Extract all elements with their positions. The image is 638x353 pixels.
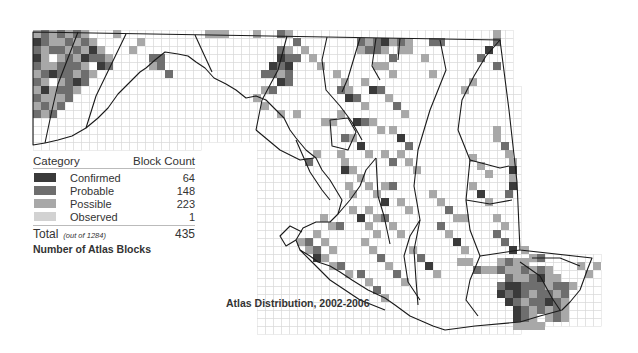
- atlas-block: [345, 94, 353, 102]
- grid-cell: [322, 287, 330, 295]
- grid-cell: [482, 287, 490, 295]
- grid-cell: [122, 95, 130, 103]
- grid-cell: [146, 103, 154, 111]
- grid-cell: [378, 239, 386, 247]
- grid-cell: [346, 239, 354, 247]
- grid-cell: [290, 279, 298, 287]
- grid-cell: [250, 71, 258, 79]
- grid-cell: [170, 79, 178, 87]
- atlas-block: [320, 214, 328, 222]
- grid-cell: [314, 119, 322, 127]
- grid-cell: [194, 119, 202, 127]
- grid-cell: [482, 295, 490, 303]
- grid-cell: [258, 39, 266, 47]
- grid-cell: [298, 31, 306, 39]
- grid-cell: [218, 135, 226, 143]
- atlas-block: [361, 118, 369, 126]
- grid-cell: [458, 295, 466, 303]
- atlas-block: [293, 54, 301, 62]
- grid-cell: [402, 87, 410, 95]
- atlas-block: [445, 230, 453, 238]
- grid-cell: [498, 87, 506, 95]
- grid-cell: [298, 263, 306, 271]
- grid-cell: [442, 303, 450, 311]
- grid-cell: [298, 191, 306, 199]
- grid-cell: [474, 327, 482, 335]
- atlas-block: [561, 314, 569, 322]
- grid-cell: [370, 319, 378, 327]
- grid-cell: [482, 135, 490, 143]
- atlas-block: [505, 290, 513, 298]
- grid-cell: [122, 87, 130, 95]
- atlas-block: [357, 46, 365, 54]
- grid-cell: [266, 207, 274, 215]
- grid-cell: [186, 63, 194, 71]
- grid-cell: [498, 175, 506, 183]
- grid-cell: [450, 47, 458, 55]
- grid-cell: [74, 135, 82, 143]
- grid-cell: [66, 111, 74, 119]
- grid-cell: [394, 207, 402, 215]
- grid-cell: [154, 111, 162, 119]
- atlas-block: [328, 222, 336, 230]
- grid-cell: [378, 135, 386, 143]
- grid-cell: [426, 239, 434, 247]
- grid-cell: [482, 71, 490, 79]
- grid-cell: [578, 311, 586, 319]
- grid-cell: [370, 327, 378, 335]
- atlas-block: [545, 266, 553, 274]
- grid-cell: [138, 31, 146, 39]
- grid-cell: [146, 87, 154, 95]
- grid-cell: [218, 95, 226, 103]
- grid-cell: [130, 31, 138, 39]
- grid-cell: [170, 55, 178, 63]
- atlas-block: [341, 166, 349, 174]
- grid-cell: [378, 167, 386, 175]
- grid-cell: [426, 247, 434, 255]
- grid-cell: [442, 31, 450, 39]
- grid-cell: [282, 255, 290, 263]
- grid-cell: [330, 63, 338, 71]
- grid-cell: [266, 127, 274, 135]
- grid-cell: [130, 119, 138, 127]
- grid-cell: [130, 143, 138, 151]
- grid-cell: [298, 287, 306, 295]
- grid-cell: [458, 311, 466, 319]
- grid-cell: [290, 167, 298, 175]
- grid-cell: [98, 31, 106, 39]
- grid-cell: [234, 71, 242, 79]
- grid-cell: [298, 175, 306, 183]
- grid-cell: [330, 311, 338, 319]
- grid-cell: [434, 263, 442, 271]
- grid-cell: [354, 311, 362, 319]
- atlas-block: [405, 38, 413, 46]
- grid-cell: [490, 303, 498, 311]
- grid-cell: [482, 63, 490, 71]
- grid-cell: [362, 135, 370, 143]
- grid-cell: [474, 143, 482, 151]
- grid-cell: [346, 311, 354, 319]
- grid-cell: [250, 79, 258, 87]
- grid-cell: [266, 279, 274, 287]
- grid-cell: [274, 167, 282, 175]
- grid-cell: [298, 63, 306, 71]
- grid-cell: [410, 135, 418, 143]
- legend-total-count: 435: [175, 227, 195, 241]
- atlas-block: [361, 102, 369, 110]
- atlas-block: [41, 102, 49, 110]
- grid-cell: [426, 167, 434, 175]
- atlas-block: [381, 198, 389, 206]
- grid-cell: [170, 63, 178, 71]
- grid-cell: [442, 183, 450, 191]
- grid-cell: [450, 327, 458, 335]
- grid-cell: [354, 247, 362, 255]
- grid-cell: [202, 119, 210, 127]
- grid-cell: [426, 87, 434, 95]
- grid-cell: [266, 191, 274, 199]
- grid-cell: [378, 223, 386, 231]
- grid-cell: [306, 87, 314, 95]
- grid-cell: [426, 31, 434, 39]
- grid-cell: [178, 135, 186, 143]
- grid-cell: [306, 111, 314, 119]
- grid-cell: [418, 247, 426, 255]
